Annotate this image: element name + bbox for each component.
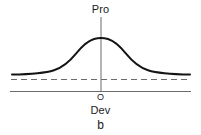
figure-container: Pro O Dev b <box>0 0 201 135</box>
panel-caption: b <box>0 119 201 131</box>
x-axis-label: Dev <box>0 105 201 116</box>
origin-label: O <box>0 93 201 102</box>
y-axis-label: Pro <box>0 4 201 15</box>
